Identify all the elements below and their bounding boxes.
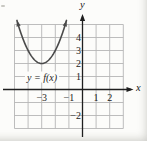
curve-right-arrowhead bbox=[63, 20, 67, 26]
x-tick-label: 1 bbox=[94, 92, 99, 103]
y-axis-arrowhead bbox=[80, 14, 85, 21]
y-tick-label: 1 bbox=[76, 71, 81, 82]
y-tick-label: −2 bbox=[70, 110, 81, 121]
scan-artifact bbox=[1, 5, 5, 7]
x-tick-label: −1 bbox=[64, 92, 75, 103]
x-axis-arrowhead bbox=[127, 87, 134, 92]
curve-label: y = f(x) bbox=[25, 72, 59, 83]
y-tick-label: 3 bbox=[76, 45, 81, 56]
y-tick-label: 2 bbox=[76, 58, 81, 69]
y-axis-label: y bbox=[80, 0, 85, 11]
curve-left-arrowhead bbox=[16, 20, 20, 26]
function-graph-figure: −3−1124321−2 x y y = f(x) bbox=[0, 0, 147, 141]
x-axis-label: x bbox=[136, 83, 141, 94]
x-tick-label: 2 bbox=[107, 92, 112, 103]
plot-svg: −3−1124321−2 bbox=[0, 0, 147, 141]
y-tick-label: 4 bbox=[76, 32, 81, 43]
x-tick-label: −3 bbox=[36, 92, 47, 103]
